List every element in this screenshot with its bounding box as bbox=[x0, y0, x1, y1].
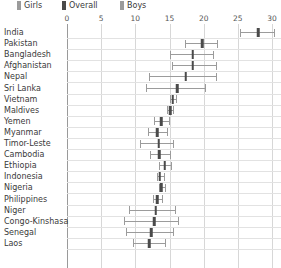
range-cap-boys bbox=[170, 151, 171, 159]
row-label-sri-lanka: Sri Lanka bbox=[4, 83, 41, 94]
range-cap-girls bbox=[157, 173, 158, 181]
chart-legend: Girls Overall Boys bbox=[0, 0, 281, 14]
range-cap-boys bbox=[173, 140, 174, 148]
chart-row: Myanmar bbox=[0, 127, 281, 138]
row-label-niger: Niger bbox=[4, 205, 26, 216]
range-cap-boys bbox=[167, 128, 168, 136]
chart-row: Ethiopia bbox=[0, 160, 281, 171]
chart-row: Maldives bbox=[0, 105, 281, 116]
row-label-yemen: Yemen bbox=[4, 116, 31, 127]
range-bar bbox=[149, 76, 216, 77]
row-label-ethiopia: Ethiopia bbox=[4, 160, 37, 171]
overall-marker bbox=[163, 161, 166, 170]
overall-marker bbox=[157, 139, 160, 148]
row-label-indonesia: Indonesia bbox=[4, 171, 43, 182]
chart-row: Timor-Leste bbox=[0, 138, 281, 149]
overall-marker bbox=[185, 72, 188, 81]
range-cap-boys bbox=[213, 51, 214, 59]
range-cap-boys bbox=[173, 228, 174, 236]
range-cap-girls bbox=[185, 40, 186, 48]
x-tick-label-5: 5 bbox=[99, 14, 104, 23]
range-cap-boys bbox=[165, 184, 166, 192]
chart-row: Senegal bbox=[0, 227, 281, 238]
row-label-afghanistan: Afghanistan bbox=[4, 60, 52, 71]
dot-range-chart: Girls Overall Boys 051015202530 IndiaPak… bbox=[0, 0, 281, 268]
overall-marker bbox=[148, 239, 151, 248]
overall-marker bbox=[191, 50, 194, 59]
chart-row: Cambodia bbox=[0, 149, 281, 160]
range-cap-girls bbox=[146, 84, 147, 92]
legend-swatch-overall bbox=[62, 1, 66, 10]
row-label-congo-kinshasa: Congo-Kinshasa bbox=[4, 216, 68, 227]
range-cap-girls bbox=[170, 51, 171, 59]
range-cap-boys bbox=[169, 117, 170, 125]
row-label-vietnam: Vietnam bbox=[4, 94, 37, 105]
range-cap-girls bbox=[159, 162, 160, 170]
chart-row: Yemen bbox=[0, 116, 281, 127]
row-label-laos: Laos bbox=[4, 238, 22, 249]
row-label-cambodia: Cambodia bbox=[4, 149, 44, 160]
chart-row: Afghanistan bbox=[0, 60, 281, 71]
range-cap-boys bbox=[178, 217, 179, 225]
overall-marker bbox=[153, 217, 156, 226]
range-cap-boys bbox=[171, 162, 172, 170]
overall-marker bbox=[172, 95, 175, 104]
range-cap-boys bbox=[216, 73, 217, 81]
legend-item-boys: Boys bbox=[120, 1, 146, 10]
overall-marker bbox=[159, 172, 162, 181]
overall-marker bbox=[160, 183, 163, 192]
chart-row: Congo-Kinshasa bbox=[0, 216, 281, 227]
chart-row: Laos bbox=[0, 238, 281, 249]
overall-marker bbox=[201, 39, 204, 48]
range-cap-girls bbox=[153, 195, 154, 203]
row-label-timor-leste: Timor-Leste bbox=[4, 138, 51, 149]
range-cap-boys bbox=[162, 195, 163, 203]
range-cap-girls bbox=[126, 228, 127, 236]
plot-area: IndiaPakistanBangladeshAfghanistanNepalS… bbox=[0, 24, 281, 268]
overall-marker bbox=[155, 206, 158, 215]
row-label-maldives: Maldives bbox=[4, 105, 39, 116]
row-label-nepal: Nepal bbox=[4, 71, 27, 82]
chart-row: Sri Lanka bbox=[0, 83, 281, 94]
chart-row: Philippines bbox=[0, 194, 281, 205]
x-tick-label-0: 0 bbox=[65, 14, 70, 23]
range-cap-girls bbox=[170, 95, 171, 103]
row-label-nigeria: Nigeria bbox=[4, 182, 33, 193]
row-label-bangladesh: Bangladesh bbox=[4, 49, 51, 60]
row-label-philippines: Philippines bbox=[4, 194, 47, 205]
range-cap-boys bbox=[176, 95, 177, 103]
range-cap-boys bbox=[274, 29, 275, 37]
legend-item-girls: Girls bbox=[17, 1, 42, 10]
row-separator bbox=[67, 249, 281, 250]
legend-item-overall: Overall bbox=[62, 1, 98, 10]
range-bar bbox=[172, 65, 216, 66]
legend-swatch-boys bbox=[120, 1, 124, 10]
row-label-pakistan: Pakistan bbox=[4, 38, 38, 49]
overall-marker bbox=[191, 61, 194, 70]
range-bar bbox=[129, 210, 175, 211]
range-cap-boys bbox=[164, 173, 165, 181]
range-cap-boys bbox=[216, 62, 217, 70]
overall-marker bbox=[156, 128, 159, 137]
row-label-myanmar: Myanmar bbox=[4, 127, 42, 138]
chart-row: Nigeria bbox=[0, 182, 281, 193]
overall-marker bbox=[169, 106, 172, 115]
chart-row: Vietnam bbox=[0, 94, 281, 105]
x-tick-label-20: 20 bbox=[199, 14, 209, 23]
legend-swatch-girls bbox=[17, 1, 21, 10]
range-cap-boys bbox=[205, 84, 206, 92]
legend-label-girls: Girls bbox=[24, 1, 42, 10]
row-label-senegal: Senegal bbox=[4, 227, 36, 238]
overall-marker bbox=[257, 28, 260, 37]
x-tick-label-25: 25 bbox=[233, 14, 243, 23]
range-cap-boys bbox=[173, 106, 174, 114]
range-cap-girls bbox=[240, 29, 241, 37]
range-cap-girls bbox=[124, 217, 125, 225]
chart-row: Nepal bbox=[0, 71, 281, 82]
range-cap-girls bbox=[154, 117, 155, 125]
chart-row: Bangladesh bbox=[0, 49, 281, 60]
chart-row: India bbox=[0, 27, 281, 38]
x-tick-label-15: 15 bbox=[165, 14, 175, 23]
range-cap-girls bbox=[129, 206, 130, 214]
range-cap-boys bbox=[217, 40, 218, 48]
